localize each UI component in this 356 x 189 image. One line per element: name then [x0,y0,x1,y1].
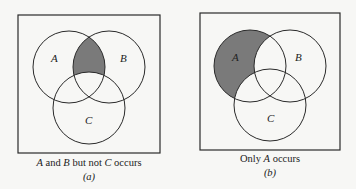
label-b: B [120,52,127,64]
caption-b: Only A occurs [240,153,300,164]
venn-diagram-figure: A B C A and B but not C occurs (a) A B C… [0,0,356,189]
venn-panel-a: A B C A and B but not C occurs (a) [18,15,160,183]
label-a: A [231,51,239,63]
sublabel-a: (a) [83,171,96,183]
label-c: C [267,112,275,124]
label-b: B [295,51,302,63]
label-a: A [50,52,58,64]
sublabel-b: (b) [264,167,277,179]
caption-a: A and B but not C occurs [35,157,141,168]
label-c: C [85,114,93,126]
venn-panel-b: A B C Only A occurs (b) [200,13,340,179]
